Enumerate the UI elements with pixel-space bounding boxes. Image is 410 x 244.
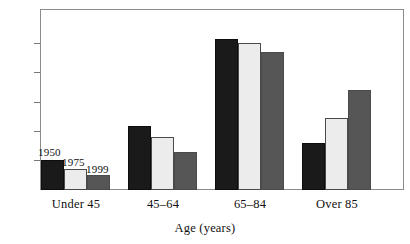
bar-1950-over-85: [302, 143, 325, 190]
x-group-label-under-45: Under 45: [26, 198, 126, 211]
bar-1975-over-85: [325, 118, 348, 190]
bar-1950-45-64: [128, 126, 151, 190]
bar-chart: 50 40 30 20 10 1950 1975 1999 Under 45 4…: [0, 0, 410, 244]
bar-1950-under-45: [41, 160, 64, 190]
bar-1975-under-45: [64, 169, 87, 190]
bar-1999-under-45: [87, 175, 110, 190]
bar-1975-65-84: [238, 43, 261, 190]
x-group-label-over-85: Over 85: [287, 198, 387, 211]
x-group-label-65-84: 65–84: [200, 198, 300, 211]
series-annotation-1975: 1975: [62, 157, 85, 168]
bar-1999-65-84: [261, 52, 284, 190]
bar-1999-over-85: [348, 90, 371, 190]
bar-1950-65-84: [215, 39, 238, 190]
bar-1999-45-64: [174, 152, 197, 190]
series-annotation-1999: 1999: [86, 164, 109, 175]
series-annotation-1950: 1950: [38, 147, 61, 158]
x-group-label-45-64: 45–64: [113, 198, 213, 211]
x-axis-title: Age (years): [0, 222, 410, 235]
bar-1975-45-64: [151, 137, 174, 190]
